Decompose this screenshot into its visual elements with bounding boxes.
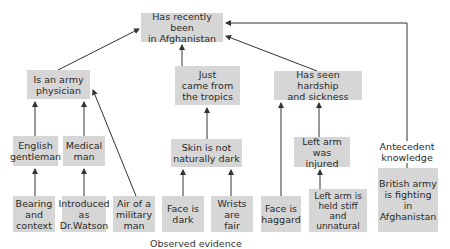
node-british-army: British army is fighting in Afghanistan — [378, 168, 438, 232]
node-afghanistan: Has recently been in Afghanistan — [141, 13, 223, 42]
node-physician: Is an army physician — [27, 70, 90, 99]
caption: Observed evidence — [150, 238, 242, 249]
node-military: Air of a military man — [113, 196, 155, 232]
node-skin: Skin is not naturally dark — [171, 139, 242, 167]
edge-physician-afghanistan — [58, 29, 139, 70]
node-wrists: Wrists are fair — [211, 196, 253, 232]
node-tropics: Just came from the tropics — [175, 66, 240, 105]
node-face-dark: Face is dark — [162, 196, 204, 232]
node-arm-injured: Left arm was injured — [294, 137, 350, 167]
node-medical: Medical man — [63, 136, 105, 166]
node-arm-stiff: Left arm is held stiff and unnatural — [309, 189, 367, 232]
antecedent-knowledge-label: Antecedent knowledge — [378, 141, 436, 163]
node-gentleman: English gentleman — [13, 136, 58, 166]
node-haggard: Face is haggard — [261, 196, 301, 232]
node-hardship: Has seen hardship and sickness — [274, 71, 362, 100]
node-bearing: Bearing and context — [13, 196, 55, 232]
node-watson: Introduced as Dr.Watson — [62, 196, 106, 232]
